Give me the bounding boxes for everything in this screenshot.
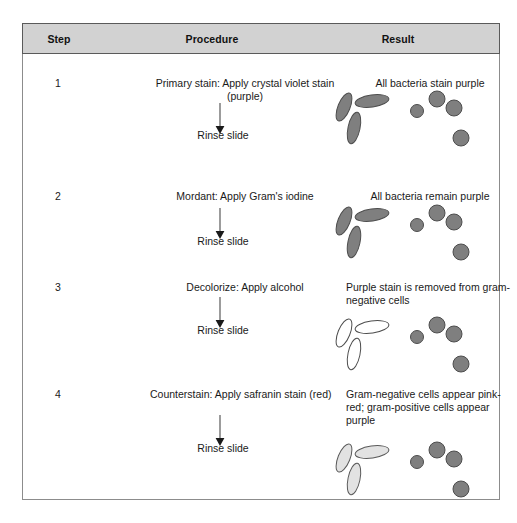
column-header-result: Result: [323, 24, 473, 55]
micrograph-row-4: [324, 435, 492, 515]
rod-cluster: [333, 91, 390, 145]
procedure-text: Counterstain: Apply safranin stain (red): [150, 388, 340, 401]
rod-cluster: [333, 442, 390, 496]
cocci-cluster: [411, 91, 470, 146]
cocci-cluster: [411, 442, 470, 497]
column-header-procedure: Procedure: [117, 24, 307, 55]
result-text: Purple stain is removed from gram-negati…: [346, 281, 514, 307]
micrograph-row-3: [324, 310, 492, 390]
cocci-cluster: [411, 205, 470, 260]
table-header: Step Procedure Result: [22, 23, 500, 54]
rod-cluster: [333, 205, 390, 259]
rinse-label: Rinse slide: [128, 442, 318, 454]
step-number: 4: [22, 388, 94, 400]
figure-root: Step Procedure Result 1 Primary stain: A…: [0, 0, 517, 523]
procedure-text: Primary stain: Apply crystal violet stai…: [150, 77, 340, 103]
rod-cluster: [333, 317, 390, 371]
procedure-text: Mordant: Apply Gram's iodine: [150, 190, 340, 203]
rinse-label: Rinse slide: [128, 235, 318, 247]
micrograph-row-2: [324, 198, 492, 278]
procedure-text: Decolorize: Apply alcohol: [150, 281, 340, 294]
step-number: 3: [22, 281, 94, 293]
cocci-cluster: [411, 317, 470, 372]
rinse-label: Rinse slide: [128, 324, 318, 336]
step-number: 1: [22, 77, 94, 89]
micrograph-row-1: [324, 84, 492, 164]
rinse-label: Rinse slide: [128, 129, 318, 141]
step-number: 2: [22, 190, 94, 202]
column-header-step: Step: [23, 24, 95, 55]
result-text: Gram-negative cells appear pink-red; gra…: [346, 388, 514, 427]
